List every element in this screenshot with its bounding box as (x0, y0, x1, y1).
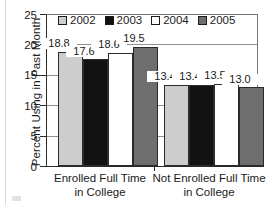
bar-not-enrolled-2005[interactable] (239, 87, 264, 166)
legend-swatch-icon-2002 (58, 16, 67, 25)
legend: 2002 2003 2004 2005 (58, 15, 235, 27)
y-tick-label-15: 15 (7, 70, 37, 82)
legend-label-2003: 2003 (117, 15, 143, 27)
bar-enrolled-2002[interactable] (58, 52, 83, 166)
legend-label-2002: 2002 (70, 15, 96, 27)
bars-layer (46, 14, 258, 166)
bar-not-enrolled-2004[interactable] (214, 84, 239, 166)
x-category-label-not-enrolled: Not Enrolled Full Time in College (152, 172, 266, 199)
legend-swatch-icon-2004 (151, 16, 160, 25)
legend-label-2004: 2004 (163, 15, 189, 27)
page-scan-artifact (12, 196, 21, 201)
legend-label-2005: 2005 (210, 15, 236, 27)
x-category-label-enrolled-line1: Enrolled Full Time (46, 172, 154, 186)
bar-enrolled-2005[interactable] (133, 47, 158, 166)
x-category-label-not-enrolled-line2: in College (152, 186, 266, 200)
legend-swatch-icon-2005 (198, 16, 207, 25)
x-category-label-not-enrolled-line1: Not Enrolled Full Time (152, 172, 266, 186)
legend-swatch-icon-2003 (105, 16, 114, 25)
bar-enrolled-2003[interactable] (83, 59, 108, 166)
bar-chart-figure: Percent Using in Past Month 25 20 15 10 … (0, 0, 275, 205)
legend-item-2005[interactable]: 2005 (198, 15, 236, 27)
page-scan-edge (5, 0, 6, 205)
y-tick-label-5: 5 (7, 131, 37, 143)
y-tick-label-10: 10 (7, 101, 37, 113)
value-label-not-enrolled-2005: 13.0 (222, 74, 258, 85)
y-axis-title: Percent Using in Past Month (30, 9, 42, 175)
x-axis-line (40, 166, 264, 167)
bar-not-enrolled-2002[interactable] (164, 85, 189, 167)
value-label-enrolled-2005: 19.5 (116, 33, 152, 44)
x-category-label-enrolled-line2: in College (46, 186, 154, 200)
y-tick-label-0: 0 (7, 162, 37, 174)
bar-enrolled-2004[interactable] (108, 53, 133, 166)
legend-item-2003[interactable]: 2003 (105, 15, 143, 27)
x-tick-mark-center (154, 166, 155, 171)
x-category-label-enrolled: Enrolled Full Time in College (46, 172, 154, 199)
legend-item-2002[interactable]: 2002 (58, 15, 96, 27)
legend-item-2004[interactable]: 2004 (151, 15, 189, 27)
bar-not-enrolled-2003[interactable] (189, 85, 214, 167)
y-tick-label-25: 25 (7, 10, 37, 22)
y-tick-label-20: 20 (7, 40, 37, 52)
